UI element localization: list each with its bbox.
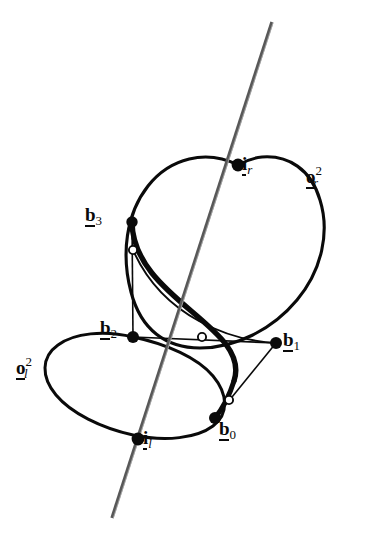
label-b-0: b0: [219, 419, 236, 439]
label-b-2-base: b: [100, 318, 111, 338]
open-point-c-middle: [198, 333, 206, 341]
label-i-l-subscript: l: [148, 436, 152, 451]
label-b-3: b3: [85, 205, 102, 225]
open-point-c-upper: [129, 246, 137, 254]
label-o-r-2: o2r: [306, 167, 327, 187]
label-b-1-subscript: 1: [294, 338, 301, 353]
label-i-l: il: [143, 428, 152, 448]
open-point-c-lower: [225, 396, 233, 404]
figure-container: ir il b0 b1 b2 b3 o2r o2l: [0, 0, 368, 544]
label-i-r-subscript: r: [247, 162, 252, 177]
label-o-l-2-subscript: l: [24, 366, 28, 381]
label-i-r: ir: [242, 154, 252, 174]
label-b-1: b1: [283, 330, 300, 350]
label-o-r-2-subscript: r: [313, 175, 318, 190]
curve-ellipse-o-r-2: [126, 157, 324, 348]
label-b-2: b2: [100, 318, 117, 338]
point-b-1: [270, 337, 282, 349]
curve-bezier-thin-companion: [133, 250, 277, 343]
label-b-2-subscript: 2: [111, 326, 118, 341]
point-b-2: [127, 331, 139, 343]
figure-canvas: [0, 0, 368, 544]
label-b-0-subscript: 0: [230, 427, 237, 442]
label-o-l-2: o2l: [16, 358, 36, 378]
label-b-0-base: b: [219, 419, 230, 439]
label-b-1-base: b: [283, 330, 294, 350]
point-b-3: [126, 216, 137, 227]
label-b-3-subscript: 3: [96, 213, 103, 228]
label-b-3-base: b: [85, 205, 96, 225]
